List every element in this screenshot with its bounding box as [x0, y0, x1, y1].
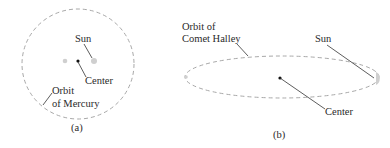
orbit-diagram: Sun Center Orbit of Mercury (a) Orbit of… — [0, 0, 390, 148]
orbit-label-line1: Orbit — [52, 85, 74, 96]
caption-b: (b) — [273, 129, 286, 141]
sun-dot — [91, 58, 97, 64]
empty-focus-dot — [63, 59, 68, 64]
empty-focus-dot — [184, 75, 188, 79]
center-leader-line — [78, 62, 86, 77]
sun-dot — [376, 72, 380, 85]
orbit-leader-line — [237, 44, 248, 56]
sun-leader-line — [84, 44, 92, 58]
sun-label: Sun — [315, 33, 332, 44]
halley-orbit — [185, 56, 379, 98]
sun-leader-line — [327, 45, 374, 78]
caption-a: (a) — [71, 122, 83, 134]
sun-label: Sun — [75, 33, 92, 44]
panel-a: Sun Center Orbit of Mercury (a) — [22, 9, 134, 134]
panel-b: Orbit of Comet Halley Sun Center (b) — [182, 21, 380, 141]
center-label: Center — [85, 75, 113, 86]
orbit-label-line1: Orbit of — [182, 21, 216, 32]
center-leader-line — [280, 78, 325, 109]
center-label: Center — [325, 106, 353, 117]
orbit-label-line2: Comet Halley — [182, 33, 241, 44]
orbit-leader-line — [43, 93, 52, 105]
orbit-label-line2: of Mercury — [52, 98, 100, 109]
